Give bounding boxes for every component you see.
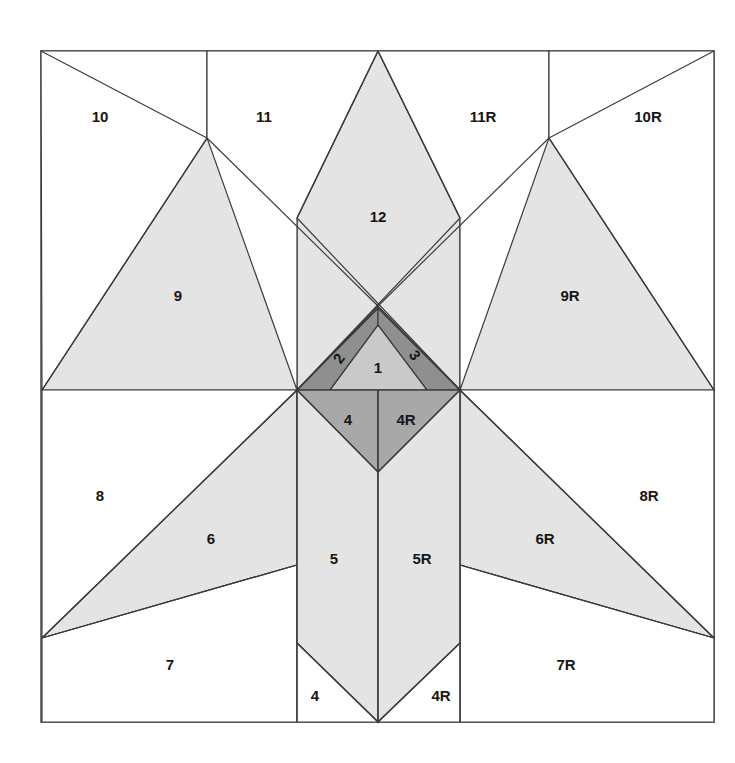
- label-region-10R: 10R: [634, 108, 662, 125]
- label-region-9: 9: [174, 287, 182, 304]
- block-diagram: 1 2 3 4 4R 5 5R 4 4R 6 6R 7 7R 8 8R 9 9R…: [0, 0, 735, 763]
- label-region-5: 5: [330, 550, 338, 567]
- label-region-4R-lower: 4R: [431, 687, 450, 704]
- diagram-root: 1 2 3 4 4R 5 5R 4 4R 6 6R 7 7R 8 8R 9 9R…: [0, 0, 735, 763]
- label-region-12: 12: [370, 208, 387, 225]
- label-region-10: 10: [92, 108, 109, 125]
- label-region-7R: 7R: [556, 656, 575, 673]
- label-region-9R: 9R: [560, 287, 579, 304]
- label-region-4: 4: [344, 411, 353, 428]
- label-region-5R: 5R: [412, 550, 431, 567]
- label-region-7: 7: [166, 656, 174, 673]
- label-region-6R: 6R: [535, 530, 554, 547]
- label-region-4-lower: 4: [311, 687, 320, 704]
- label-region-8R: 8R: [639, 487, 658, 504]
- label-region-4R: 4R: [396, 411, 415, 428]
- label-region-11R: 11R: [470, 108, 497, 125]
- label-region-8: 8: [96, 487, 104, 504]
- label-region-11: 11: [256, 108, 272, 125]
- label-region-6: 6: [207, 530, 215, 547]
- label-region-1: 1: [374, 359, 382, 376]
